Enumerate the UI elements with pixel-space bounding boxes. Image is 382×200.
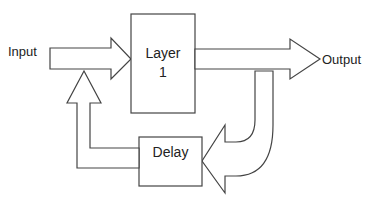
layer-label-line1: Layer bbox=[131, 44, 195, 63]
output-label: Output bbox=[322, 52, 361, 67]
input-label: Input bbox=[8, 44, 37, 59]
layer-label: Layer 1 bbox=[131, 44, 195, 82]
feedback-curved-arrow bbox=[202, 71, 273, 193]
input-arrow bbox=[50, 38, 131, 79]
layer-label-line2: 1 bbox=[131, 63, 195, 82]
delay-label: Delay bbox=[139, 143, 202, 162]
diagram-canvas bbox=[0, 0, 382, 200]
feedback-up-arrow bbox=[67, 71, 139, 168]
